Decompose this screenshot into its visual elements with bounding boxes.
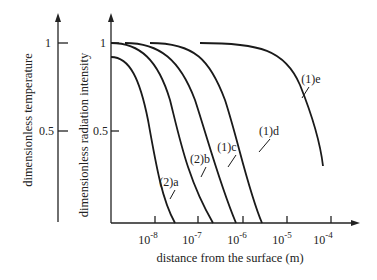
right-tick-1: 1: [100, 36, 106, 50]
label-1d: (1)d: [259, 124, 279, 138]
left-y-axis: [55, 13, 68, 222]
label-2a: (2)a: [159, 175, 179, 189]
x-tick-labels: 10-8 10-7 10-6 10-5 10-4: [138, 230, 333, 247]
curve-2a: [111, 57, 175, 223]
right-tick-0.5: 0.5: [93, 124, 108, 138]
curve-2b: [111, 43, 213, 223]
curve-1c: [125, 43, 236, 223]
svg-text:10-4: 10-4: [313, 230, 333, 247]
svg-text:10-6: 10-6: [227, 230, 247, 247]
left-tick-0.5: 0.5: [39, 124, 54, 138]
svg-text:10-5: 10-5: [272, 230, 292, 247]
label-1c: (1)c: [217, 140, 236, 154]
right-axis-label: dimensionless radiation intensity: [77, 52, 91, 217]
svg-text:10-7: 10-7: [182, 230, 202, 247]
label-1e: (1)e: [301, 72, 320, 86]
left-axis-label: dimensionless temperature: [21, 53, 35, 187]
label-2b: (2)b: [190, 152, 210, 166]
x-axis-label: distance from the surface (m): [156, 251, 303, 265]
svg-text:10-8: 10-8: [138, 230, 158, 247]
right-y-axis: [108, 13, 119, 223]
left-tick-1: 1: [45, 36, 51, 50]
chart: 1 0.5 dimensionless temperature 1 0.5 di…: [0, 0, 377, 280]
